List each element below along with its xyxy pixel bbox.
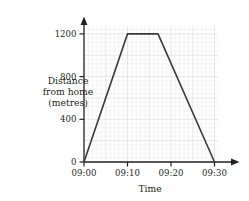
x-tick-label-0920: 09:20 — [159, 168, 184, 178]
y-axis-title-line-1: Distance — [48, 75, 89, 86]
y-tick-label-1200: 1200 — [55, 29, 77, 39]
distance-time-graph-figure: 0 400 800 1200 09:00 09:10 09:20 09:30 D… — [0, 0, 249, 201]
x-tick-label-0900: 09:00 — [72, 168, 97, 178]
y-axis-title-line-3: (metres) — [48, 97, 88, 108]
y-tick-label-400: 400 — [60, 114, 76, 124]
x-axis-title: Time — [138, 183, 161, 194]
chart-svg: 0 400 800 1200 09:00 09:10 09:20 09:30 D… — [0, 0, 249, 201]
x-tick-label-0930: 09:30 — [202, 168, 227, 178]
x-tick-label-0910: 09:10 — [115, 168, 140, 178]
y-tick-label-0: 0 — [71, 157, 76, 167]
y-axis-title-line-2: from home — [43, 86, 94, 97]
